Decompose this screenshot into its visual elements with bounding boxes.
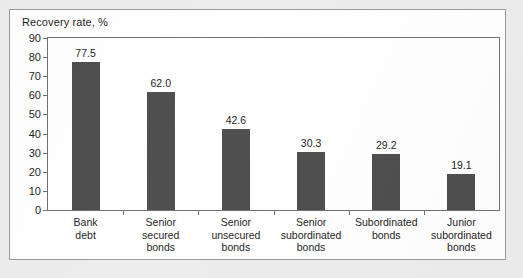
x-axis-category-label: Bankdebt (74, 216, 98, 241)
bar-value-label: 19.1 (451, 160, 471, 171)
x-axis-category-label: Seniorsecuredbonds (142, 216, 179, 254)
x-axis-category-line: subordinated (281, 229, 342, 242)
x-axis-category-line: debt (74, 229, 98, 242)
x-axis-tick-mark (198, 210, 199, 215)
x-axis-tick-mark (349, 210, 350, 215)
bar[interactable]: 19.1 (447, 174, 475, 211)
y-axis-tick-mark (43, 114, 48, 115)
x-axis-tick-mark (274, 210, 275, 215)
y-axis-tick-mark (43, 172, 48, 173)
y-axis-tick-mark (43, 153, 48, 154)
y-axis-tick-mark (43, 191, 48, 192)
bar[interactable]: 30.3 (297, 152, 325, 210)
x-axis-category-line: Bank (74, 216, 98, 229)
bar-value-label: 77.5 (75, 48, 95, 59)
y-axis-tick-label: 0 (35, 205, 41, 216)
y-axis-tick-mark (43, 76, 48, 77)
x-axis-category-label: Seniorunsecuredbonds (211, 216, 260, 254)
x-axis-category-line: secured (142, 229, 179, 242)
y-axis-tick-mark (43, 38, 48, 39)
x-axis-category-line: Senior (211, 216, 260, 229)
x-axis-category-line: bonds (431, 241, 492, 254)
x-axis-category-line: bonds (281, 241, 342, 254)
y-axis-tick-label: 90 (29, 33, 41, 44)
y-axis-tick-label: 10 (29, 185, 41, 196)
x-axis-category-line: subordinated (431, 229, 492, 242)
bar-value-label: 62.0 (151, 78, 171, 89)
plot-inner: 010203040506070809077.5Bankdebt62.0Senio… (48, 38, 499, 210)
x-axis-category-line: Senior (142, 216, 179, 229)
bar[interactable]: 62.0 (147, 92, 175, 210)
x-axis-category-line: bonds (142, 241, 179, 254)
x-axis-category-label: Juniorsubordinatedbonds (431, 216, 492, 254)
bar-value-label: 29.2 (376, 140, 396, 151)
y-axis-tick-label: 60 (29, 90, 41, 101)
x-axis-tick-mark (424, 210, 425, 215)
x-axis-category-line: bonds (355, 229, 417, 242)
chart-panel: Recovery rate, % 010203040506070809077.5… (9, 9, 506, 260)
x-axis-category-label: Subordinatedbonds (355, 216, 417, 241)
x-axis-category-line: bonds (211, 241, 260, 254)
y-axis-tick-label: 40 (29, 128, 41, 139)
x-axis-category-label: Seniorsubordinatedbonds (281, 216, 342, 254)
x-axis-tick-mark (123, 210, 124, 215)
bar-value-label: 42.6 (226, 115, 246, 126)
y-axis-tick-mark (43, 95, 48, 96)
chart-title: Recovery rate, % (22, 16, 108, 29)
y-axis-tick-label: 30 (29, 147, 41, 158)
y-axis-tick-mark (43, 134, 48, 135)
x-axis-category-line: Senior (281, 216, 342, 229)
y-axis-tick-mark (43, 57, 48, 58)
y-axis-tick-label: 80 (29, 52, 41, 63)
y-axis-tick-label: 70 (29, 71, 41, 82)
y-axis-tick-label: 20 (29, 166, 41, 177)
bar[interactable]: 42.6 (222, 129, 250, 210)
bar[interactable]: 29.2 (372, 154, 400, 210)
x-axis-category-line: Subordinated (355, 216, 417, 229)
plot-area: 010203040506070809077.5Bankdebt62.0Senio… (47, 37, 500, 211)
y-axis-tick-mark (43, 210, 48, 211)
bar-value-label: 30.3 (301, 138, 321, 149)
y-axis-tick-label: 50 (29, 109, 41, 120)
x-axis-category-line: unsecured (211, 229, 260, 242)
x-axis-category-line: Junior (431, 216, 492, 229)
figure-root: Recovery rate, % 010203040506070809077.5… (0, 0, 523, 278)
bar[interactable]: 77.5 (72, 62, 100, 210)
